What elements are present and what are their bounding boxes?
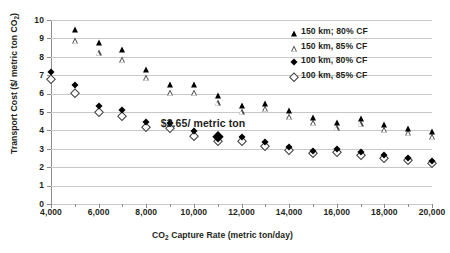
y-axis-tick-label: 10: [22, 16, 44, 25]
y-axis-tick: [47, 130, 51, 131]
x-axis-tick-label: 6,000: [75, 208, 123, 217]
x-axis-title: CO2 Capture Rate (metric ton/day): [0, 230, 445, 241]
y-axis-tick: [47, 186, 51, 187]
legend-label: 100 km, 80% CF: [301, 55, 367, 66]
gridline-y: [51, 20, 432, 21]
y-axis-tick-label: 6: [22, 89, 44, 98]
legend-label: 150 km, 85% CF: [301, 41, 367, 52]
x-axis-tick-label: 14,000: [265, 208, 313, 217]
y-axis-tick-label: 9: [22, 34, 44, 43]
gridline-y: [51, 38, 432, 39]
x-axis-tick: [384, 204, 385, 208]
y-axis-tick-label: 5: [22, 108, 44, 117]
x-axis-tick-label: 18,000: [360, 208, 408, 217]
y-axis-tick-label: 4: [22, 126, 44, 135]
legend-label: 100 km, 85% CF: [301, 70, 367, 81]
y-axis-tick-label: 2: [22, 163, 44, 172]
x-axis-tick-label: 10,000: [170, 208, 218, 217]
gridline-y: [51, 149, 432, 150]
x-axis-tick: [194, 204, 195, 208]
x-axis-tick-label: 12,000: [218, 208, 266, 217]
x-axis-minor-tick: [265, 204, 266, 207]
x-axis-minor-tick: [408, 204, 409, 207]
x-axis-title-text: CO2 Capture Rate (metric ton/day): [152, 230, 293, 240]
gridline-y: [51, 167, 432, 168]
plot-area: [51, 20, 432, 204]
x-axis-tick: [146, 204, 147, 208]
x-axis-minor-tick: [313, 204, 314, 207]
x-axis-tick: [242, 204, 243, 208]
x-axis-tick-label: 20,000: [408, 208, 450, 217]
y-axis-tick: [47, 20, 51, 21]
x-axis-tick-label: 16,000: [313, 208, 361, 217]
y-axis-tick-label: 3: [22, 145, 44, 154]
y-axis-tick-label: 7: [22, 71, 44, 80]
y-axis-tick-label: 8: [22, 53, 44, 62]
gridline-y: [51, 57, 432, 58]
x-axis-minor-tick: [75, 204, 76, 207]
legend-label: 150 km; 80% CF: [301, 26, 368, 37]
gridline-y: [51, 130, 432, 131]
gridline-y: [51, 186, 432, 187]
y-axis-title: Transport Cost ($/ metric ton CO2): [9, 0, 20, 184]
y-axis-tick: [47, 94, 51, 95]
x-axis-tick: [337, 204, 338, 208]
y-axis-tick: [47, 75, 51, 76]
y-axis-tick: [47, 57, 51, 58]
y-axis-tick: [47, 112, 51, 113]
x-axis-tick: [432, 204, 433, 208]
y-axis-tick: [47, 149, 51, 150]
x-axis-tick-label: 8,000: [122, 208, 170, 217]
y-axis-tick: [47, 167, 51, 168]
cost-annotation: $3.65/ metric ton: [161, 117, 246, 129]
x-axis-minor-tick: [361, 204, 362, 207]
gridline-y: [51, 94, 432, 95]
x-axis-minor-tick: [122, 204, 123, 207]
y-axis-tick-label: 1: [22, 181, 44, 190]
x-axis-minor-tick: [170, 204, 171, 207]
y-axis-title-text: Transport Cost ($/ metric ton CO2): [9, 13, 19, 154]
x-axis-tick: [51, 204, 52, 208]
x-axis-minor-tick: [218, 204, 219, 207]
gridline-y: [51, 75, 432, 76]
x-axis-tick: [289, 204, 290, 208]
x-axis-tick: [99, 204, 100, 208]
x-axis-tick-label: 4,000: [27, 208, 75, 217]
y-axis-tick: [47, 38, 51, 39]
